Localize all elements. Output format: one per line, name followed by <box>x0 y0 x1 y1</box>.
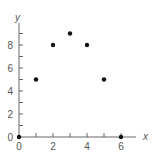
data-point <box>119 135 123 139</box>
data-point <box>85 43 89 47</box>
y-tick-label: 2 <box>7 109 13 120</box>
x-tick-label: 6 <box>118 141 124 152</box>
scatter-chart: 024602468 x y <box>0 0 158 161</box>
x-axis-label: x <box>142 131 149 142</box>
y-tick-label: 8 <box>7 40 13 51</box>
x-tick-label: 2 <box>50 141 56 152</box>
data-point <box>102 77 106 81</box>
y-tick-label: 6 <box>7 63 13 74</box>
tick-labels: 024602468 <box>7 40 124 152</box>
y-tick-label: 4 <box>7 86 13 97</box>
data-point <box>17 135 21 139</box>
ticks <box>19 34 121 138</box>
data-point <box>51 43 55 47</box>
data-point <box>68 31 72 35</box>
x-tick-label: 4 <box>84 141 90 152</box>
x-tick-label: 0 <box>16 141 22 152</box>
y-tick-label: 0 <box>7 132 13 143</box>
y-axis-label: y <box>14 12 21 23</box>
data-points <box>17 31 123 139</box>
data-point <box>34 77 38 81</box>
